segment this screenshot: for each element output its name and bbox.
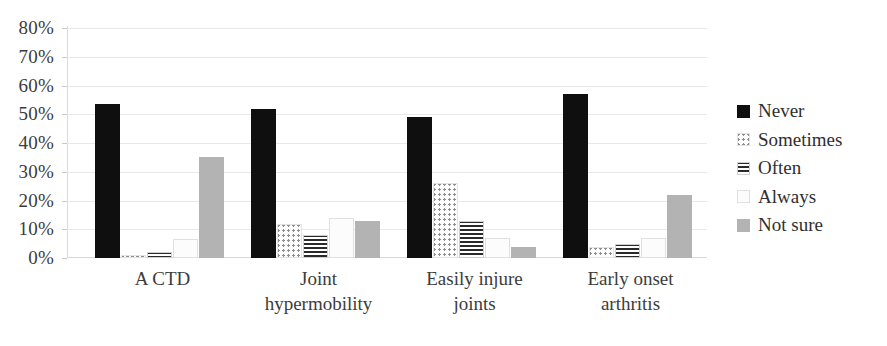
legend-label: Never — [758, 100, 804, 122]
legend-swatch-always-icon — [737, 190, 750, 203]
x-category-label-3: Easily injure joints — [397, 266, 552, 316]
bar-never — [407, 117, 432, 258]
y-axis: 80% 70% 60% 50% 40% 30% 20% 10% 0% — [0, 0, 62, 275]
legend-label: Often — [758, 157, 801, 179]
legend-swatch-sometimes-icon — [737, 133, 750, 146]
bar-often — [615, 244, 640, 258]
bar-sometimes — [277, 224, 302, 259]
y-tick-label: 70% — [19, 46, 54, 68]
legend-item-sometimes: Sometimes — [737, 126, 887, 155]
bar-not-sure — [355, 221, 380, 258]
legend-item-always: Always — [737, 183, 887, 212]
x-category-line: Easily injure — [397, 266, 552, 291]
legend-swatch-not-sure-icon — [737, 219, 750, 232]
bar-group — [563, 28, 698, 258]
x-axis: A CTD Joint hypermobility Easily injure … — [67, 266, 707, 346]
bar-group — [95, 28, 230, 258]
y-tick-label: 20% — [19, 190, 54, 212]
legend-label: Not sure — [758, 214, 823, 236]
x-category-line: joints — [397, 291, 552, 316]
x-category-line: hypermobility — [241, 291, 396, 316]
y-tick-label: 60% — [19, 75, 54, 97]
legend-label: Sometimes — [758, 129, 842, 151]
legend-swatch-often-icon — [737, 162, 750, 175]
x-category-label-2: Joint hypermobility — [241, 266, 396, 316]
bar-always — [485, 238, 510, 258]
bar-not-sure — [667, 195, 692, 258]
bar-always — [329, 218, 354, 258]
x-category-label-4: Early onset arthritis — [553, 266, 708, 316]
y-tick-label: 80% — [19, 17, 54, 39]
bar-group — [251, 28, 386, 258]
bar-chart: 80% 70% 60% 50% 40% 30% 20% 10% 0% — [0, 0, 887, 346]
bar-never — [251, 109, 276, 259]
y-tick-label: 30% — [19, 161, 54, 183]
x-category-line: Early onset — [553, 266, 708, 291]
x-category-line: arthritis — [553, 291, 708, 316]
legend-item-never: Never — [737, 97, 887, 126]
y-tick-mark — [62, 258, 67, 259]
bar-not-sure — [199, 157, 224, 258]
bar-never — [563, 94, 588, 258]
bar-sometimes — [433, 183, 458, 258]
x-category-label-1: A CTD — [85, 266, 240, 291]
y-tick-label: 40% — [19, 132, 54, 154]
bar-always — [173, 239, 198, 258]
y-tick-label: 50% — [19, 103, 54, 125]
bar-often — [303, 235, 328, 258]
y-tick-label: 10% — [19, 218, 54, 240]
legend-item-not-sure: Not sure — [737, 211, 887, 240]
x-category-line: Joint — [241, 266, 396, 291]
legend-item-often: Often — [737, 154, 887, 183]
y-tick-label: 0% — [28, 247, 54, 269]
bar-sometimes — [589, 247, 614, 259]
bar-never — [95, 104, 120, 258]
bar-always — [641, 238, 666, 258]
plot-area — [67, 28, 707, 258]
bar-not-sure — [511, 247, 536, 259]
legend: Never Sometimes Often Always Not sure — [737, 97, 887, 240]
legend-label: Always — [758, 186, 816, 208]
x-category-line: A CTD — [85, 266, 240, 291]
bar-group — [407, 28, 542, 258]
bar-often — [459, 221, 484, 258]
bar-often — [147, 252, 172, 258]
legend-swatch-never-icon — [737, 105, 750, 118]
y-axis-line — [67, 26, 68, 258]
bar-sometimes — [121, 255, 146, 258]
